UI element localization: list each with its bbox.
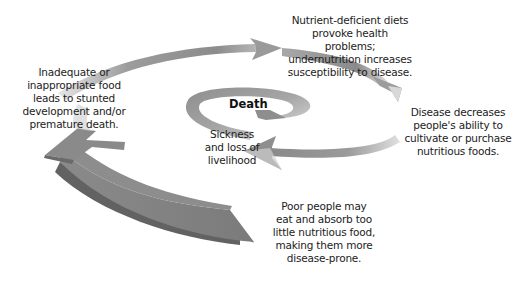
label-line: making them more [264, 239, 384, 252]
center-label-death: Death [229, 97, 268, 111]
step-label-sickness: Sickness and loss of livelihood [200, 128, 264, 167]
label-line: people's ability to [394, 119, 522, 132]
label-line: inappropriate food [18, 79, 130, 92]
step-label-disease-decreases: Disease decreases people's ability to cu… [394, 106, 522, 158]
label-line: cultivate or purchase [394, 132, 522, 145]
label-line: development and/or [18, 105, 130, 118]
label-line: Nutrient-deficient diets [272, 14, 428, 27]
label-line: and loss of [200, 141, 264, 154]
malnutrition-disease-cycle-diagram: Nutrient-deficient diets provoke health … [0, 0, 522, 283]
label-line: eat and absorb too [264, 213, 384, 226]
label-line: premature death. [18, 118, 130, 131]
label-line: provoke health [272, 27, 428, 40]
label-line: undernutrition increases [272, 53, 428, 66]
label-line: Disease decreases [394, 106, 522, 119]
label-line: problems; [272, 40, 428, 53]
label-line: Inadequate or [18, 66, 130, 79]
step-label-poor-people: Poor people may eat and absorb too littl… [264, 200, 384, 265]
label-line: leads to stunted [18, 92, 130, 105]
label-line: nutritious foods. [394, 145, 522, 158]
label-line: disease-prone. [264, 252, 384, 265]
label-line: Poor people may [264, 200, 384, 213]
label-line: little nutritious food, [264, 226, 384, 239]
arrow-middle-left [244, 135, 400, 170]
label-line: susceptibility to disease. [272, 66, 428, 79]
step-label-nutrient-deficient: Nutrient-deficient diets provoke health … [272, 14, 428, 79]
label-line: livelihood [200, 154, 264, 167]
label-line: Sickness [200, 128, 264, 141]
step-label-inadequate-food: Inadequate or inappropriate food leads t… [18, 66, 130, 131]
